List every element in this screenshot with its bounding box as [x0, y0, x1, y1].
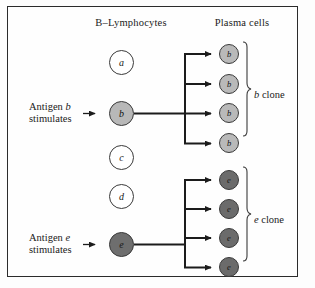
- column-header-b-lymphocytes: B–Lymphocytes: [76, 17, 186, 28]
- antigen-b-stimulus-label: Antigen b stimulates: [29, 101, 72, 126]
- plasma-cell-e-1-label: e: [227, 176, 231, 185]
- b-clone-label: b clone: [254, 89, 285, 100]
- b-clone-text: clone: [259, 89, 284, 100]
- lymphocyte-b-label: b: [119, 109, 124, 119]
- lymphocyte-b[interactable]: b: [109, 101, 134, 126]
- antigen-e-prefix: Antigen: [29, 232, 65, 243]
- e-clone-label: e clone: [254, 214, 284, 225]
- antigen-e-line2: stimulates: [29, 244, 72, 256]
- plasma-cell-e-2[interactable]: e: [219, 199, 239, 219]
- lymphocyte-d-label: d: [119, 192, 124, 202]
- antigen-e-symbol: e: [65, 232, 70, 243]
- antigen-b-line2: stimulates: [29, 113, 72, 125]
- lymphocyte-e[interactable]: e: [109, 232, 134, 257]
- lymphocyte-c-label: c: [119, 153, 123, 163]
- antigen-e-line1: Antigen e: [29, 232, 72, 244]
- plasma-cell-b-4-label: b: [227, 139, 231, 148]
- plasma-cell-b-1[interactable]: b: [219, 44, 239, 64]
- plasma-cell-e-2-label: e: [227, 205, 231, 214]
- antigen-b-symbol: b: [65, 101, 70, 112]
- clonal-selection-figure: B–Lymphocytes Plasma cells a: [0, 0, 315, 288]
- plasma-cell-e-1[interactable]: e: [219, 170, 239, 190]
- plasma-cell-b-2[interactable]: b: [219, 74, 239, 94]
- antigen-b-prefix: Antigen: [29, 101, 65, 112]
- plasma-cell-b-1-label: b: [227, 50, 231, 59]
- plasma-cell-b-4[interactable]: b: [219, 133, 239, 153]
- plasma-cell-b-3[interactable]: b: [219, 103, 239, 123]
- lymphocyte-d[interactable]: d: [109, 184, 134, 209]
- plasma-cell-e-3[interactable]: e: [219, 228, 239, 248]
- e-clone-text: clone: [259, 214, 284, 225]
- lymphocyte-a-label: a: [119, 58, 124, 68]
- column-header-plasma-cells: Plasma cells: [192, 17, 292, 28]
- plasma-cell-b-3-label: b: [227, 109, 231, 118]
- lymphocyte-c[interactable]: c: [109, 145, 134, 170]
- lymphocyte-a[interactable]: a: [109, 50, 134, 75]
- plasma-cell-e-4-label: e: [227, 263, 231, 272]
- lymphocyte-e-label: e: [119, 240, 123, 250]
- antigen-e-stimulus-label: Antigen e stimulates: [29, 232, 72, 257]
- plasma-cell-b-2-label: b: [227, 80, 231, 89]
- plasma-cell-e-3-label: e: [227, 234, 231, 243]
- antigen-b-line1: Antigen b: [29, 101, 72, 113]
- plasma-cell-e-4[interactable]: e: [219, 257, 239, 277]
